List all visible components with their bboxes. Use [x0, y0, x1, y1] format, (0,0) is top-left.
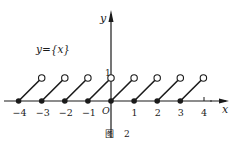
x-tick-label: 1 [132, 107, 138, 118]
closed-endpoint-icon [85, 98, 91, 104]
caption-number: 2 [124, 129, 130, 139]
x-tick-labels: −4−3−2−1O1234 [13, 105, 207, 118]
x-tick-label: 2 [155, 107, 161, 118]
segment-line [65, 80, 86, 101]
segment-line [111, 80, 132, 101]
closed-endpoint-icon [16, 98, 22, 104]
function-label: y={x} [35, 43, 70, 56]
origin-label: O [102, 105, 110, 116]
open-endpoint-icon [108, 75, 114, 81]
segment-line [134, 80, 155, 101]
x-tick-label: −1 [82, 107, 96, 118]
segment-line [180, 80, 201, 101]
segment-line [19, 80, 40, 101]
caption-char: 图 [105, 129, 114, 139]
open-endpoint-icon [62, 75, 68, 81]
open-endpoint-icon [39, 75, 45, 81]
open-endpoint-icon [177, 75, 183, 81]
closed-endpoint-icon [154, 98, 160, 104]
x-tick-label: 4 [201, 107, 207, 118]
x-tick-label: −2 [59, 107, 73, 118]
open-endpoint-icon [131, 75, 137, 81]
plot-area: y x y={x} 1 −4−3−2−1O1234 图 2 [0, 0, 236, 143]
segment-line [88, 80, 109, 101]
closed-endpoint-icon [178, 98, 184, 104]
x-tick-label: −3 [36, 107, 50, 118]
fractional-part-graph: y x y={x} 1 −4−3−2−1O1234 图 2 [0, 0, 236, 143]
open-endpoint-icon [154, 75, 160, 81]
axis-dot [210, 100, 212, 102]
closed-endpoint-icon [131, 98, 137, 104]
closed-endpoint-icon [39, 98, 45, 104]
x-tick-label: 3 [178, 107, 184, 118]
closed-endpoint-icon [62, 98, 68, 104]
segment-line [42, 80, 63, 101]
x-tick-label: −4 [13, 107, 27, 118]
closed-endpoint-icon [108, 98, 114, 104]
x-axis-label: x [222, 103, 229, 116]
y-axis-label: y [99, 12, 107, 25]
segment-line [157, 80, 178, 101]
open-endpoint-icon [200, 75, 206, 81]
open-endpoint-icon [85, 75, 91, 81]
y-axis-arrow-icon [109, 10, 114, 22]
